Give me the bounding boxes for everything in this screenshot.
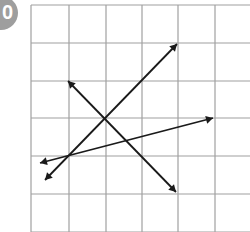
grid-diagram [0, 0, 250, 232]
arrow-1 [45, 44, 177, 180]
arrow-2 [68, 81, 176, 192]
arrowhead-icon [40, 157, 48, 165]
arrowhead-icon [205, 116, 213, 124]
